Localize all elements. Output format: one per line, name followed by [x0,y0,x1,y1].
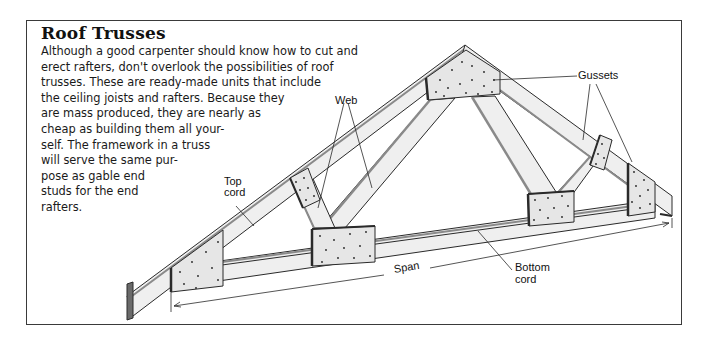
label-web: Web [335,95,357,106]
label-bottom-cord-line2: cord [515,274,536,285]
label-gussets: Gussets [578,70,618,81]
label-top-cord-line2: cord [224,187,245,198]
label-bottom-cord-line1: Bottom [515,262,550,273]
apex-gusset [426,50,500,100]
center-right-gusset [528,191,574,226]
right-heel-gusset [628,163,655,216]
truss-diagram [0,0,706,343]
